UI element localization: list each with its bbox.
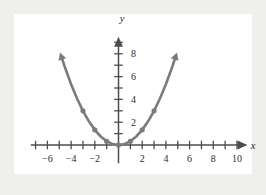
x-axis-label: x	[250, 140, 256, 151]
graph-figure: −6−4−22468102468 x y	[0, 0, 266, 195]
data-point-marker	[140, 127, 145, 132]
parabola-plot: −6−4−22468102468 x y	[0, 0, 266, 195]
x-tick-label: 4	[163, 153, 168, 164]
y-tick-label: 6	[131, 71, 136, 82]
data-point-marker	[128, 139, 133, 144]
data-point-marker	[104, 139, 109, 144]
data-point-marker	[80, 108, 85, 113]
y-axis-label: y	[119, 13, 125, 24]
x-tick-label: 6	[187, 153, 192, 164]
y-tick-label: 4	[131, 94, 136, 105]
y-tick-label: 2	[131, 117, 136, 128]
data-point-marker	[116, 142, 121, 147]
y-tick-label: 8	[131, 48, 136, 59]
x-tick-label: −4	[66, 153, 77, 164]
x-tick-label: 8	[211, 153, 216, 164]
x-tick-label: 2	[140, 153, 145, 164]
data-point-marker	[92, 127, 97, 132]
x-tick-label: −2	[89, 153, 100, 164]
x-tick-label: 10	[232, 153, 242, 164]
x-tick-label: −6	[42, 153, 53, 164]
data-point-marker	[151, 108, 156, 113]
